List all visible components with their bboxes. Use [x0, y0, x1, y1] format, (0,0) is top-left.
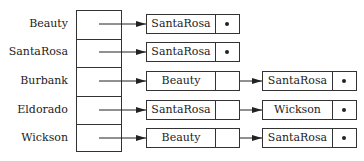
node-value: SantaRosa [263, 72, 333, 90]
node-value: Wickson [263, 101, 333, 119]
node-value: Beauty [147, 72, 216, 90]
list-node: Beauty [146, 71, 240, 91]
null-pointer [333, 129, 356, 147]
list-node: SantaRosa [146, 42, 240, 62]
node-value: SantaRosa [147, 15, 216, 33]
null-pointer [216, 43, 239, 61]
node-value: Beauty [147, 129, 216, 147]
next-pointer [216, 101, 239, 119]
null-pointer [333, 72, 356, 90]
null-dot-icon [225, 22, 229, 26]
null-dot-icon [342, 79, 346, 83]
list-node: SantaRosa [146, 100, 240, 120]
next-pointer [216, 129, 239, 147]
null-pointer [216, 15, 239, 33]
node-value: SantaRosa [263, 129, 333, 147]
list-node: SantaRosa [146, 14, 240, 34]
null-pointer [333, 101, 356, 119]
node-value: SantaRosa [147, 101, 216, 119]
list-node: Beauty [146, 128, 240, 148]
next-pointer [216, 72, 239, 90]
null-dot-icon [225, 50, 229, 54]
null-dot-icon [342, 108, 346, 112]
list-node: SantaRosa [262, 71, 357, 91]
null-dot-icon [342, 136, 346, 140]
list-node: Wickson [262, 100, 357, 120]
list-node: SantaRosa [262, 128, 357, 148]
node-value: SantaRosa [147, 43, 216, 61]
